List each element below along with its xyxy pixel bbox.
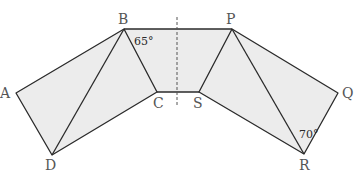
vertex-label-q: Q — [342, 85, 353, 101]
geometry-diagram: A B C D P Q R S 65° 70° — [0, 0, 357, 172]
angle-label-b: 65° — [134, 35, 154, 48]
vertex-label-a: A — [0, 85, 11, 101]
angle-label-r: 70° — [299, 128, 319, 141]
vertex-label-c: C — [153, 95, 164, 111]
vertex-label-p: P — [226, 11, 235, 27]
vertex-label-d: D — [45, 157, 56, 172]
vertex-label-r: R — [299, 157, 310, 172]
vertex-label-b: B — [118, 11, 128, 27]
vertex-label-s: S — [193, 95, 203, 111]
